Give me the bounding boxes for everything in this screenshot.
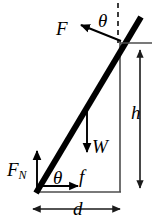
force-F-label: F [56, 19, 68, 38]
angle-theta-top-label: θ [98, 11, 107, 30]
weight-W-label: W [92, 137, 108, 156]
distance-d-label: d [73, 199, 83, 218]
height-h-label: h [131, 103, 141, 122]
friction-f-label: f [79, 167, 84, 186]
angle-theta-bottom-label: θ [53, 168, 62, 187]
normal-force-symbol: F [7, 159, 19, 180]
normal-force-subscript: N [19, 168, 27, 182]
free-body-diagram: F θ W f θ h d FN [0, 0, 162, 220]
normal-force-label: FN [7, 160, 27, 181]
